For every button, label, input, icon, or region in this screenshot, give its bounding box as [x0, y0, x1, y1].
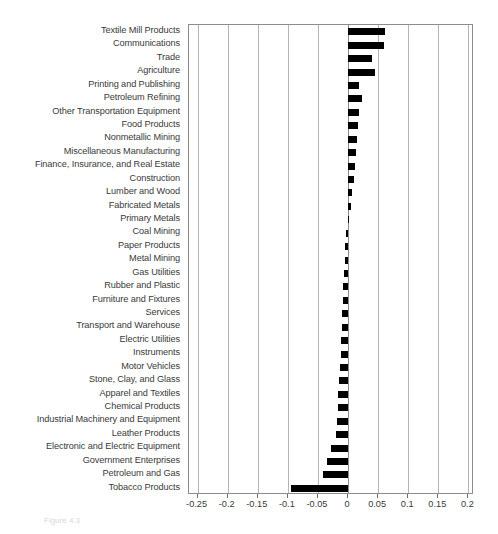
category-label: Trade: [157, 51, 180, 64]
x-tick-label: -0.2: [219, 499, 235, 509]
bar: [348, 122, 358, 129]
category-label: Apparel and Textiles: [99, 387, 180, 400]
x-tick: [317, 494, 318, 498]
x-tick-label: -0.1: [279, 499, 295, 509]
gridline: [198, 25, 199, 493]
x-tick-label: 0.05: [368, 499, 386, 509]
bar: [343, 297, 348, 304]
category-label: Textile Mill Products: [101, 24, 180, 37]
gridline: [408, 25, 409, 493]
category-label: Stone, Clay, and Glass: [89, 373, 180, 386]
category-label: Transport and Warehouse: [76, 319, 180, 332]
x-tick-label: -0.25: [186, 499, 207, 509]
category-label: Government Enterprises: [83, 454, 180, 467]
gridline: [318, 25, 319, 493]
gridline: [228, 25, 229, 493]
bar: [348, 203, 351, 210]
category-label: Instruments: [133, 346, 180, 359]
category-label: Finance, Insurance, and Real Estate: [35, 158, 180, 171]
x-tick: [347, 494, 348, 498]
category-label: Leather Products: [112, 427, 180, 440]
gridline: [468, 25, 469, 493]
category-label: Miscellaneous Manufacturing: [64, 145, 180, 158]
category-label: Communications: [113, 37, 180, 50]
category-axis-labels: Textile Mill ProductsCommunicationsTrade…: [0, 24, 184, 494]
category-label: Services: [146, 306, 180, 319]
bar: [343, 283, 348, 290]
bar: [348, 109, 359, 116]
x-tick: [407, 494, 408, 498]
x-tick: [467, 494, 468, 498]
gridline: [258, 25, 259, 493]
category-label: Paper Products: [118, 239, 180, 252]
category-label: Tobacco Products: [109, 481, 180, 494]
category-label: Construction: [130, 172, 180, 185]
category-label: Petroleum and Gas: [103, 467, 180, 480]
category-label: Coal Mining: [133, 225, 180, 238]
category-label: Other Transportation Equipment: [52, 105, 180, 118]
x-tick-label: -0.05: [306, 499, 327, 509]
bar: [348, 216, 349, 223]
category-label: Gas Utilities: [132, 266, 180, 279]
bar: [337, 418, 348, 425]
x-tick-label: 0.1: [401, 499, 414, 509]
bar: [346, 230, 348, 237]
bar: [348, 176, 354, 183]
bar: [336, 431, 348, 438]
x-tick-label: 0.15: [428, 499, 446, 509]
category-label: Nonmetallic Mining: [104, 131, 180, 144]
bar: [348, 95, 362, 102]
bar: [348, 42, 384, 49]
category-label: Food Products: [122, 118, 180, 131]
bar: [341, 351, 349, 358]
bar: [345, 243, 348, 250]
bar: [348, 189, 352, 196]
x-tick: [377, 494, 378, 498]
category-label: Lumber and Wood: [106, 185, 180, 198]
bar: [348, 55, 372, 62]
bar: [291, 485, 348, 492]
category-label: Rubber and Plastic: [104, 279, 180, 292]
bar: [348, 163, 355, 170]
bar: [348, 136, 357, 143]
bar: [348, 28, 385, 35]
bar: [323, 471, 348, 478]
gridline: [288, 25, 289, 493]
x-tick-label: 0.2: [461, 499, 474, 509]
x-tick-label: -0.15: [246, 499, 267, 509]
gridline: [378, 25, 379, 493]
category-label: Printing and Publishing: [88, 78, 180, 91]
bar: [348, 69, 375, 76]
x-tick: [197, 494, 198, 498]
bar: [340, 364, 348, 371]
bar: [339, 377, 348, 384]
category-label: Electric Utilities: [120, 333, 180, 346]
category-label: Furniture and Fixtures: [92, 293, 180, 306]
bar: [344, 270, 348, 277]
value-axis: -0.25-0.2-0.15-0.1-0.0500.050.10.150.2: [188, 494, 473, 524]
category-label: Agriculture: [137, 64, 180, 77]
category-label: Primary Metals: [120, 212, 180, 225]
category-label: Chemical Products: [105, 400, 180, 413]
category-label: Electronic and Electric Equipment: [46, 440, 180, 453]
bar: [331, 445, 348, 452]
category-label: Fabricated Metals: [109, 199, 180, 212]
figure-container: Textile Mill ProductsCommunicationsTrade…: [0, 0, 498, 534]
category-label: Motor Vehicles: [121, 360, 180, 373]
bar: [342, 310, 348, 317]
x-tick: [287, 494, 288, 498]
x-tick-label: 0: [344, 499, 349, 509]
plot-area: [188, 24, 473, 494]
bar: [338, 391, 348, 398]
bar: [345, 257, 348, 264]
bar: [348, 149, 356, 156]
bar: [341, 337, 348, 344]
x-tick: [227, 494, 228, 498]
bar: [342, 324, 348, 331]
category-label: Metal Mining: [129, 252, 180, 265]
bar: [338, 404, 348, 411]
gridline: [438, 25, 439, 493]
x-tick: [257, 494, 258, 498]
bar: [348, 82, 359, 89]
figure-caption: Figure 4.3: [44, 516, 80, 525]
